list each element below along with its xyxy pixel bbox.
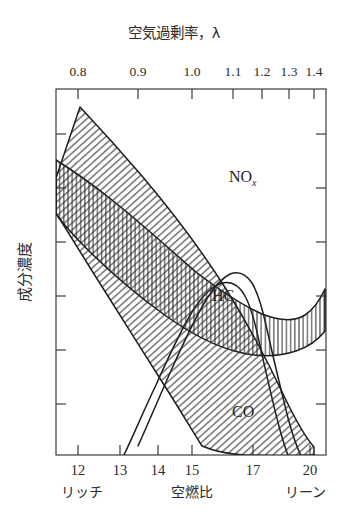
bottom-tick-label-3: 15 — [185, 462, 200, 478]
top-axis-tick-labels: 0.8 0.9 1.0 1.1 1.2 1.3 1.4 — [70, 64, 323, 79]
bottom-axis-title: 空燃比 — [171, 484, 213, 500]
bottom-tick-label-2: 14 — [151, 462, 166, 478]
co-label: CO — [232, 403, 254, 420]
bottom-tick-label-5: 20 — [303, 462, 318, 478]
bottom-tick-label-4: 17 — [246, 462, 261, 478]
co-band-hatch — [56, 107, 314, 456]
right-axis-ticks — [316, 134, 326, 404]
nox-label: NOx — [229, 168, 257, 188]
bottom-axis-tick-labels: 12 13 14 15 17 20 — [71, 462, 318, 478]
top-tick-label-4: 1.2 — [254, 64, 271, 79]
top-tick-label-6: 1.4 — [306, 64, 323, 79]
bottom-captions: リッチ 空燃比 リーン — [61, 484, 326, 500]
bottom-tick-label-1: 13 — [113, 462, 128, 478]
top-tick-label-3: 1.1 — [225, 64, 242, 79]
top-axis-title: 空気過剰率，λ — [128, 25, 221, 41]
bottom-left-caption: リッチ — [61, 484, 103, 500]
bottom-tick-label-0: 12 — [71, 462, 86, 478]
bottom-right-caption: リーン — [285, 484, 326, 500]
top-tick-label-1: 0.9 — [130, 64, 147, 79]
top-axis-ticks — [78, 89, 314, 99]
top-tick-label-5: 1.3 — [281, 64, 298, 79]
emissions-vs-air-fuel-ratio-chart: 空気過剰率，λ 0.8 0.9 1.0 1.1 1.2 1.3 1.4 — [0, 0, 348, 515]
top-tick-label-2: 1.0 — [184, 64, 201, 79]
top-tick-label-0: 0.8 — [70, 64, 87, 79]
hc-label: HC — [212, 287, 234, 304]
series-co — [56, 107, 314, 456]
y-axis-title: 成分濃度 — [16, 242, 34, 302]
